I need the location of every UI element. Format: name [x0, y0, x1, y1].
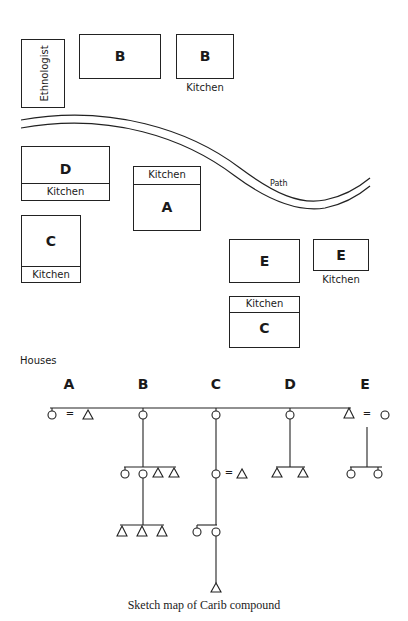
path-label: Path [270, 179, 288, 188]
marriage-sign-e: = [361, 408, 373, 419]
path-and-kinship-lines [0, 0, 408, 621]
house-c: C Kitchen [21, 215, 81, 283]
house-d-label: D [22, 161, 109, 177]
house-d-kitchen-label: Kitchen [22, 186, 109, 197]
house-a-divider [134, 184, 200, 185]
house-d-divider [22, 183, 109, 184]
house-e-label: E [230, 253, 299, 269]
house-c-label: C [22, 233, 80, 249]
house-a: Kitchen A [133, 166, 201, 231]
houses-heading: Houses [20, 355, 57, 366]
kinship-column-e: E [355, 376, 375, 392]
house-e-kitchen-caption: Kitchen [313, 274, 369, 285]
kinship-column-c: C [206, 376, 226, 392]
house-a-label: A [134, 199, 200, 215]
kinship-column-b: B [133, 376, 153, 392]
house-c2-label: C [230, 320, 299, 336]
kinship-column-a: A [59, 376, 79, 392]
house-e-kitchen: E [313, 239, 369, 271]
house-c2-divider [230, 312, 299, 313]
house-e-kitchen-letter: E [314, 247, 368, 263]
figure-caption: Sketch map of Carib compound [0, 598, 408, 613]
house-c2: Kitchen C [229, 296, 300, 348]
kinship-column-d: D [280, 376, 300, 392]
house-c-divider [22, 266, 80, 267]
house-d: D Kitchen [21, 146, 110, 201]
house-c2-kitchen-label: Kitchen [230, 298, 299, 309]
house-e: E [229, 239, 300, 283]
house-a-kitchen-label: Kitchen [134, 169, 200, 180]
marriage-sign-c: = [223, 467, 235, 478]
house-c-kitchen-label: Kitchen [22, 269, 80, 280]
marriage-sign-a: = [64, 408, 76, 419]
